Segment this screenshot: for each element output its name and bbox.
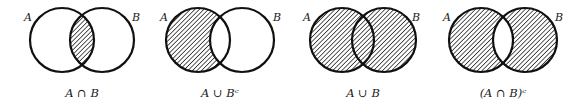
set-a-label: A bbox=[302, 11, 311, 24]
set-b-label: B bbox=[411, 11, 420, 24]
caption: A ∪ Bᶜ bbox=[200, 86, 239, 100]
set-a-label: A bbox=[442, 11, 451, 24]
caption: A ∩ B bbox=[64, 86, 99, 100]
venn-union: A B A ∪ B bbox=[302, 8, 420, 100]
set-a-label: A bbox=[159, 11, 168, 24]
caption: (A ∩ B)ᶜ bbox=[480, 86, 527, 100]
venn-diagrams-figure: A B A ∩ B A B A ∪ Bᶜ A B A ∪ B A B (A ∩ … bbox=[0, 0, 586, 107]
set-b-label: B bbox=[554, 11, 563, 24]
venn-complement-of-intersection: A B (A ∩ B)ᶜ bbox=[442, 8, 563, 100]
set-a-label: A bbox=[23, 11, 32, 24]
caption: A ∪ B bbox=[345, 86, 380, 100]
set-b-label: B bbox=[272, 11, 281, 24]
venn-intersection: A B A ∩ B bbox=[23, 8, 140, 100]
venn-a-union-b-complement: A B A ∪ Bᶜ bbox=[159, 8, 281, 100]
set-b-label: B bbox=[131, 11, 140, 24]
